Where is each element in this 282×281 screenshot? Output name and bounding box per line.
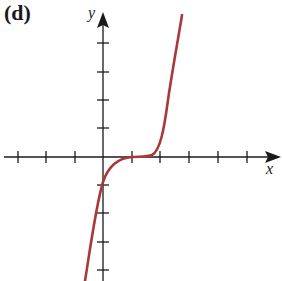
function-curve (85, 15, 182, 281)
y-axis (97, 24, 109, 281)
graph (0, 0, 282, 281)
